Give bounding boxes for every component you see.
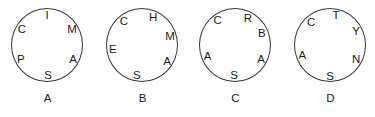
wheel-letter: C — [304, 15, 318, 29]
wheel-letter: S — [323, 69, 337, 83]
letter-wheel-a: IMASPCA — [0, 0, 95, 117]
wheel-letter: H — [146, 10, 160, 24]
wheel-caption: C — [188, 92, 283, 104]
wheel-letter: P — [14, 52, 28, 66]
wheel-letter: S — [130, 68, 144, 82]
wheel-letter: I — [40, 8, 54, 22]
wheel-letter: B — [255, 26, 269, 40]
wheel-letter: S — [41, 68, 55, 82]
wheel-caption: B — [95, 92, 190, 104]
wheel-letter: A — [160, 54, 174, 68]
letter-wheels-figure: IMASPCAHMASECBRBASACCTYNSACD — [0, 0, 375, 117]
wheel-caption: D — [283, 92, 375, 104]
wheel-letter: E — [106, 42, 120, 56]
wheel-letter: Y — [349, 24, 363, 38]
wheel-letter: A — [201, 49, 215, 63]
wheel-letter: S — [227, 68, 241, 82]
wheel-letter: R — [241, 11, 255, 25]
wheel-letter: T — [329, 8, 343, 22]
letter-wheel-b: HMASECB — [95, 0, 190, 117]
wheel-letter: C — [211, 13, 225, 27]
wheel-letter: A — [295, 48, 309, 62]
wheel-letter: C — [117, 14, 131, 28]
wheel-letter: A — [66, 52, 80, 66]
wheel-letter: M — [163, 29, 177, 43]
wheel-letter: M — [65, 22, 79, 36]
wheel-caption: A — [0, 92, 95, 104]
letter-wheel-d: TYNSACD — [283, 0, 375, 117]
wheel-letter: C — [15, 22, 29, 36]
wheel-letter: A — [254, 52, 268, 66]
wheel-letter: N — [349, 52, 363, 66]
letter-wheel-c: RBASACC — [188, 0, 283, 117]
